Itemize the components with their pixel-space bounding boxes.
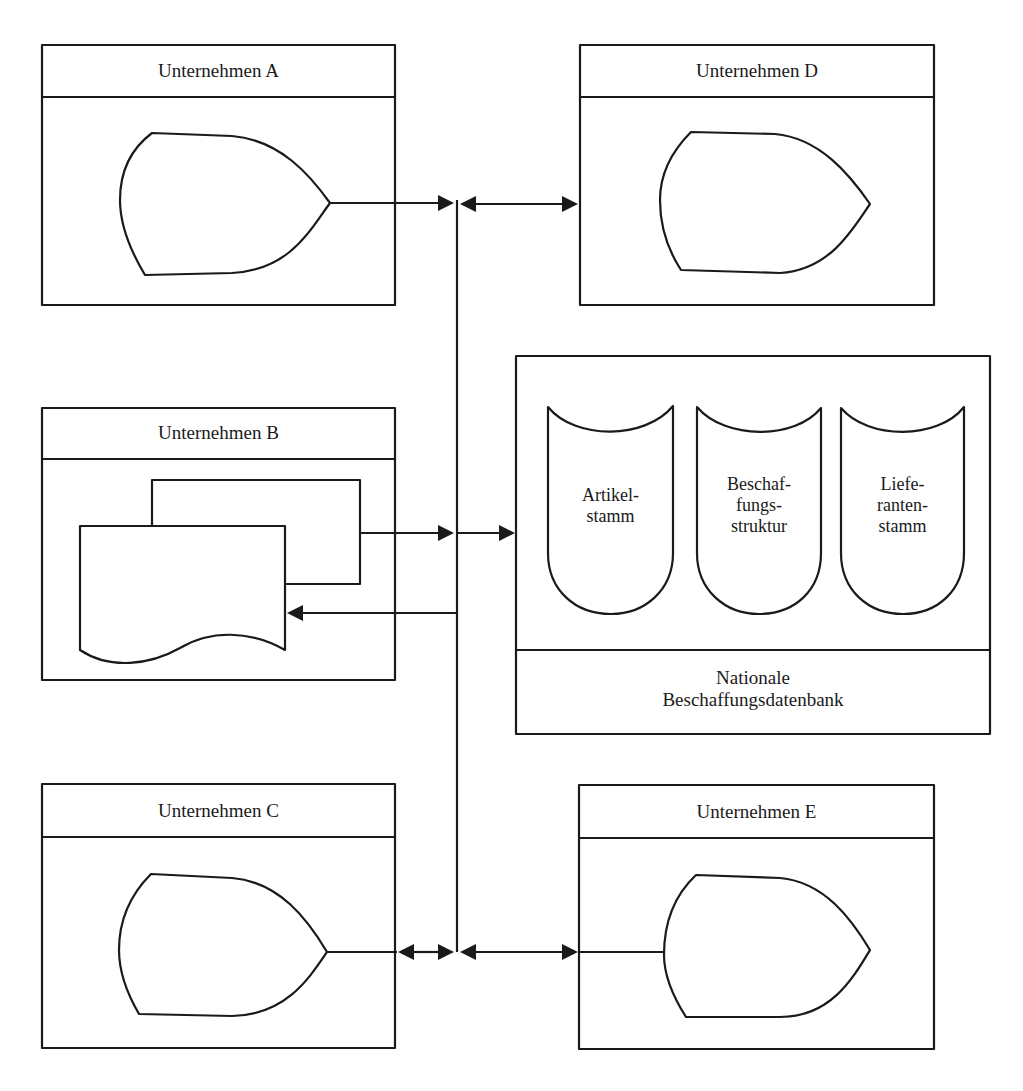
arrowhead-icon [460, 196, 476, 212]
arrowhead-icon [460, 944, 476, 960]
company-d-box [580, 45, 934, 305]
display-terminal-icon [664, 875, 870, 1017]
arrowhead-icon [438, 944, 454, 960]
company-c-box [42, 784, 395, 1048]
company-b-box [42, 408, 395, 680]
store-label-lieferantenstamm: Liefe- ranten- stamm [841, 474, 964, 537]
company-d-title: Unternehmen D [580, 60, 934, 82]
company-e-box [579, 785, 934, 1049]
arrowhead-icon [438, 195, 454, 211]
arrowhead-icon [562, 944, 578, 960]
company-c-title: Unternehmen C [42, 800, 395, 822]
database-title: Nationale Beschaffungsdatenbank [516, 667, 990, 711]
arrowhead-icon [499, 525, 515, 541]
database-title-line2: Beschaffungsdatenbank [516, 689, 990, 711]
database-title-line1: Nationale [516, 667, 990, 689]
document-stack-icon [80, 480, 360, 663]
diagram-canvas [0, 0, 1023, 1091]
arrowhead-icon [398, 944, 414, 960]
company-a-box [42, 45, 395, 305]
arrowhead-icon [287, 605, 303, 621]
display-terminal-icon [119, 874, 327, 1016]
display-terminal-icon [120, 133, 330, 275]
display-terminal-icon [660, 132, 870, 273]
company-e-title: Unternehmen E [579, 801, 934, 823]
arrowhead-icon [438, 525, 454, 541]
store-label-beschaffungsstruktur: Beschaf- fungs- struktur [697, 474, 821, 537]
arrowhead-icon [562, 196, 578, 212]
store-label-artikelstamm: Artikel- stamm [548, 485, 673, 527]
company-a-title: Unternehmen A [42, 60, 395, 82]
company-b-title: Unternehmen B [42, 422, 395, 444]
